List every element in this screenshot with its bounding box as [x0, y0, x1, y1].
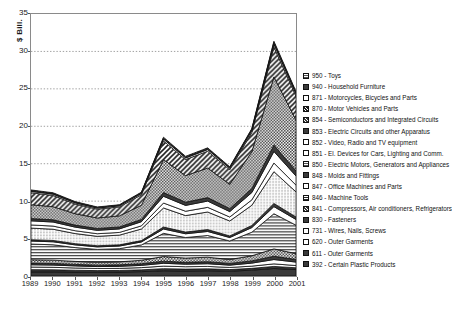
chart-root: $ Bill. 05101520253035 — [0, 0, 452, 311]
legend-label: 853 - Electric Circuits and other Appara… — [312, 128, 430, 135]
legend-swatch-icon — [303, 106, 309, 112]
legend-label: 846 - Machine Tools — [312, 194, 368, 201]
legend-swatch-icon — [303, 84, 309, 90]
legend-swatch-icon — [303, 217, 309, 223]
legend-label: 611 - Outer Garments — [312, 250, 373, 257]
legend-swatch-icon — [303, 161, 309, 167]
x-tick-label: 1989 — [22, 280, 39, 288]
legend-swatch-icon — [303, 128, 309, 134]
chart-legend: 950 - Toys940 - Household Furniture871 -… — [303, 70, 451, 270]
legend-label: 848 - Molds and Fittings — [312, 172, 379, 179]
y-tick-label: 10 — [2, 198, 28, 206]
legend-item[interactable]: 620 - Outer Garments — [303, 236, 451, 247]
legend-item[interactable]: 611 - Outer Garments — [303, 248, 451, 259]
x-tick-label: 1999 — [244, 280, 261, 288]
legend-item[interactable]: 853 - Electric Circuits and other Appara… — [303, 125, 451, 136]
legend-swatch-icon — [303, 206, 309, 212]
legend-label: 854 - Semiconductors and Integrated Circ… — [312, 116, 438, 123]
legend-swatch-icon — [303, 139, 309, 145]
legend-item[interactable]: 847 - Office Machines and Parts — [303, 181, 451, 192]
y-axis-ticklabels: 05101520253035 — [0, 13, 28, 277]
legend-swatch-icon — [303, 183, 309, 189]
x-tick-label: 1994 — [133, 280, 150, 288]
x-tick-label: 1992 — [88, 280, 105, 288]
x-tick-label: 2001 — [289, 280, 306, 288]
y-tick-label: 25 — [2, 84, 28, 92]
y-tick-label: 20 — [2, 122, 28, 130]
y-tick-label: 35 — [2, 9, 28, 17]
legend-swatch-icon — [303, 117, 309, 123]
legend-item[interactable]: 854 - Semiconductors and Integrated Circ… — [303, 114, 451, 125]
stacked-area-svg — [31, 14, 296, 276]
y-tick-label: 5 — [2, 235, 28, 243]
legend-label: 871 - Motorcycles, Bicycles and Parts — [312, 94, 417, 101]
legend-item[interactable]: 392 - Certain Plastic Products — [303, 259, 451, 270]
legend-label: 870 - Motor Vehicles and Parts — [312, 105, 398, 112]
legend-swatch-icon — [303, 250, 309, 256]
legend-item[interactable]: 731 - Wires, Nails, Screws — [303, 225, 451, 236]
x-tick-label: 1998 — [222, 280, 239, 288]
legend-label: 392 - Certain Plastic Products — [312, 261, 395, 268]
legend-swatch-icon — [303, 172, 309, 178]
legend-item[interactable]: 850 - Electric Motors, Generators and Ap… — [303, 159, 451, 170]
plot-area — [30, 13, 297, 277]
legend-item[interactable]: 830 - Fasteners — [303, 214, 451, 225]
legend-item[interactable]: 848 - Molds and Fittings — [303, 170, 451, 181]
legend-label: 847 - Office Machines and Parts — [312, 183, 402, 190]
legend-swatch-icon — [303, 95, 309, 101]
legend-label: 830 - Fasteners — [312, 216, 356, 223]
legend-label: 950 - Toys — [312, 72, 341, 79]
y-tick-label: 30 — [2, 47, 28, 55]
x-tick-label: 1996 — [177, 280, 194, 288]
legend-item[interactable]: 852 - Video, Radio and TV equipment — [303, 137, 451, 148]
x-tick-label: 1997 — [200, 280, 217, 288]
x-tick-label: 1990 — [44, 280, 61, 288]
legend-swatch-icon — [303, 195, 309, 201]
x-axis-ticklabels: 1989199019911992199319941995199619971998… — [30, 280, 297, 294]
legend-swatch-icon — [303, 73, 309, 79]
legend-item[interactable]: 870 - Motor Vehicles and Parts — [303, 103, 451, 114]
x-tick-label: 1991 — [66, 280, 83, 288]
legend-item[interactable]: 871 - Motorcycles, Bicycles and Parts — [303, 92, 451, 103]
y-tick-label: 15 — [2, 160, 28, 168]
legend-label: 731 - Wires, Nails, Screws — [312, 227, 386, 234]
legend-swatch-icon — [303, 228, 309, 234]
x-tick-label: 2000 — [266, 280, 283, 288]
legend-label: 940 - Household Furniture — [312, 83, 385, 90]
legend-swatch-icon — [303, 261, 309, 267]
legend-item[interactable]: 851 - El. Devices for Cars, Lighting and… — [303, 148, 451, 159]
legend-label: 841 - Compressors, Air conditioners, Ref… — [312, 205, 452, 212]
legend-item[interactable]: 950 - Toys — [303, 70, 451, 81]
x-tick-label: 1993 — [111, 280, 128, 288]
legend-swatch-icon — [303, 239, 309, 245]
legend-item[interactable]: 841 - Compressors, Air conditioners, Ref… — [303, 203, 451, 214]
legend-label: 852 - Video, Radio and TV equipment — [312, 139, 417, 146]
x-tick-label: 1995 — [155, 280, 172, 288]
area-layers — [31, 41, 296, 276]
legend-label: 850 - Electric Motors, Generators and Ap… — [312, 161, 449, 168]
legend-label: 620 - Outer Garments — [312, 238, 373, 245]
legend-item[interactable]: 846 - Machine Tools — [303, 192, 451, 203]
legend-label: 851 - El. Devices for Cars, Lighting and… — [312, 150, 444, 157]
legend-swatch-icon — [303, 150, 309, 156]
legend-item[interactable]: 940 - Household Furniture — [303, 81, 451, 92]
